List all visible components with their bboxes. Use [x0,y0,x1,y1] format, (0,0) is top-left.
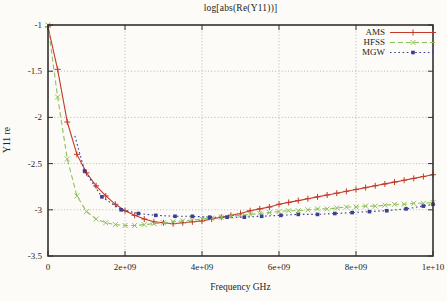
data-point-marker [420,174,426,180]
data-point-marker [55,66,61,72]
data-point-marker [368,210,372,214]
y-tick-label: -2 [0,112,44,122]
y-tick-label: -1 [0,20,44,30]
data-point-marker [350,211,354,215]
series-line-MGW [75,136,433,217]
data-point-marker [353,186,359,192]
x-tick-label: 4e+09 [191,262,214,272]
data-point-marker [279,214,283,218]
data-point-marker [411,175,417,181]
plot-figure: log[abs(Re(Y11))] Y11 re 02e+094e+096e+0… [0,0,447,301]
x-tick-label: 1e+10 [422,262,445,272]
data-point-marker [382,181,388,187]
data-point-marker [422,204,426,208]
data-point-marker [225,215,229,219]
legend-item-mgw: MGW [362,47,436,57]
data-point-marker [243,215,247,219]
data-point-marker [295,198,301,204]
data-point-marker [334,190,340,196]
legend-item-ams: AMS [362,27,436,37]
data-point-marker [64,119,70,125]
series-MGW [75,136,435,219]
data-point-marker [343,188,349,194]
data-point-marker [316,213,320,217]
data-point-marker [173,214,177,218]
legend-label-hfss: HFSS [363,37,385,47]
data-point-marker [296,213,300,217]
x-tick-label: 0 [46,262,51,272]
legend-sample-line-hfss [390,38,436,47]
data-point-marker [392,179,398,185]
legend-sample-line-ams [390,28,436,37]
legend-label-mgw: MGW [362,47,385,57]
data-point-marker [276,201,282,207]
data-point-marker [404,207,408,211]
x-tick-label: 6e+09 [268,262,291,272]
data-point-marker [154,214,158,218]
legend: AMS HFSS MGW [362,27,436,57]
data-point-marker [401,177,407,183]
y-tick-label: -2.5 [0,159,44,169]
data-point-marker [286,199,292,205]
x-tick-label: 8e+09 [345,262,368,272]
y-tick-label: -1.5 [0,66,44,76]
data-point-marker [137,212,141,216]
data-point-marker [141,216,147,222]
legend-item-hfss: HFSS [362,37,436,47]
legend-label-ams: AMS [365,27,385,37]
data-point-marker [385,209,389,213]
data-point-marker [363,185,369,191]
plot-border [48,25,433,256]
series-markers-MGW [83,169,435,219]
legend-sample-line-mgw [390,48,436,57]
data-point-marker [266,204,272,210]
data-point-marker [324,192,330,198]
data-point-marker [94,217,99,222]
data-point-marker [83,169,87,173]
data-point-marker [333,212,337,216]
data-point-marker [305,196,311,202]
x-tick-label: 2e+09 [114,262,137,272]
tick-marks [48,25,433,256]
data-point-marker [119,208,123,212]
data-point-marker [315,194,321,200]
x-axis-label: Frequency GHz [48,282,433,292]
data-point-marker [260,214,264,218]
data-point-marker [191,214,195,218]
data-point-marker [372,183,378,189]
y-tick-label: -3 [0,205,44,215]
y-tick-label: -3.5 [0,251,44,261]
grid-lines [48,25,433,256]
data-point-marker [100,195,104,199]
data-point-marker [208,215,212,219]
